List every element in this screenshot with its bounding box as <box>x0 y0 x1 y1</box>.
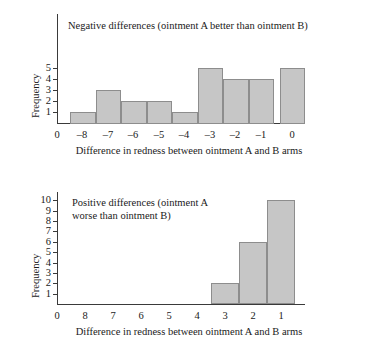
x-tick-label-bottom-4: 4 <box>187 311 207 322</box>
y-tick-label-bottom-10: 10 <box>27 195 51 206</box>
x-tick-label-bottom-7: 7 <box>103 311 123 322</box>
y-tick-bottom-5 <box>53 252 57 253</box>
bar-top-neg1 <box>249 79 274 124</box>
y-tick-bottom-3 <box>53 273 57 274</box>
y-tick-label-bottom-4: 4 <box>33 258 51 269</box>
x-tick-label-top-0b: 0 <box>282 130 302 141</box>
y-tick-label-top-4: 4 <box>33 74 51 85</box>
y-tick-top-5 <box>53 68 57 69</box>
bar-top-neg7 <box>96 90 121 124</box>
y-tick-bottom-9 <box>53 211 57 212</box>
y-tick-top-1 <box>53 112 57 113</box>
x-tick-label-top-m5: –5 <box>149 130 169 141</box>
bar-top-neg8 <box>70 112 96 124</box>
y-tick-bottom-2 <box>53 283 57 284</box>
x-tick-label-top-m1: –1 <box>251 130 271 141</box>
y-tick-label-bottom-9: 9 <box>33 206 51 217</box>
y-axis-line-top <box>57 14 58 123</box>
bar-top-neg4 <box>172 112 198 124</box>
x-tick-label-bottom-6: 6 <box>131 311 151 322</box>
y-tick-label-top-3: 3 <box>33 85 51 96</box>
y-tick-label-top-2: 2 <box>33 96 51 107</box>
x-tick-label-bottom-1: 1 <box>271 311 291 322</box>
x-tick-label-bottom-2: 2 <box>243 311 263 322</box>
panel-title-bottom: Positive differences (ointment A worse t… <box>72 196 208 222</box>
bar-bottom-3 <box>211 283 239 304</box>
x-tick-label-bottom-3: 3 <box>215 311 235 322</box>
y-axis-line-bottom <box>57 192 58 304</box>
y-tick-label-bottom-3: 3 <box>33 268 51 279</box>
y-tick-bottom-6 <box>53 242 57 243</box>
bar-top-neg6 <box>121 101 147 124</box>
bar-bottom-2 <box>239 242 267 304</box>
y-tick-label-bottom-1: 1 <box>33 289 51 300</box>
y-tick-bottom-10 <box>53 200 57 201</box>
x-tick-label-top-m6: –6 <box>123 130 143 141</box>
y-tick-bottom-7 <box>53 231 57 232</box>
x-tick-label-bottom-8: 8 <box>75 311 95 322</box>
panel-title-top: Negative differences (ointment A better … <box>68 19 308 32</box>
x-tick-label-bottom-0: 0 <box>47 311 67 322</box>
y-tick-top-3 <box>53 90 57 91</box>
histogram-positive-differences: Frequency Positive differences (ointment… <box>0 178 369 357</box>
x-tick-label-top-m3: –3 <box>200 130 220 141</box>
y-tick-label-top-5: 5 <box>33 63 51 74</box>
y-tick-bottom-4 <box>53 263 57 264</box>
x-tick-label-top-0: 0 <box>47 130 67 141</box>
x-tick-label-bottom-5: 5 <box>159 311 179 322</box>
y-tick-label-bottom-8: 8 <box>33 216 51 227</box>
bar-bottom-1 <box>267 200 295 304</box>
y-tick-bottom-8 <box>53 221 57 222</box>
x-axis-title-bottom: Difference in redness between ointment A… <box>49 326 329 338</box>
histogram-negative-differences: Frequency Negative differences (ointment… <box>0 0 369 180</box>
x-axis-line-bottom <box>57 304 305 305</box>
x-tick-label-top-m4: –4 <box>174 130 194 141</box>
bar-top-neg3 <box>198 68 223 124</box>
y-tick-bottom-1 <box>53 294 57 295</box>
y-tick-top-4 <box>53 79 57 80</box>
x-tick-label-top-m2: –2 <box>225 130 245 141</box>
y-tick-label-bottom-6: 6 <box>33 237 51 248</box>
y-tick-label-bottom-7: 7 <box>33 226 51 237</box>
x-tick-label-top-m7: –7 <box>98 130 118 141</box>
bar-top-neg5 <box>147 101 172 124</box>
x-tick-label-top-m8: –8 <box>72 130 92 141</box>
x-axis-title-top: Difference in redness between ointment A… <box>49 145 329 157</box>
bar-top-neg2 <box>223 79 249 124</box>
y-tick-top-2 <box>53 101 57 102</box>
y-tick-label-bottom-5: 5 <box>33 247 51 258</box>
y-tick-label-bottom-2: 2 <box>33 278 51 289</box>
bar-top-zero <box>280 68 305 124</box>
y-tick-label-top-1: 1 <box>33 107 51 118</box>
